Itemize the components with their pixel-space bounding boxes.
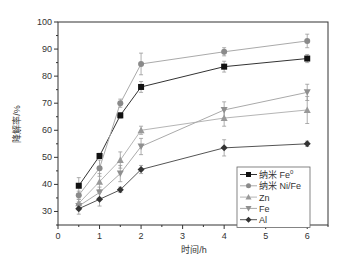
data-point [117,112,123,118]
legend-label: 纳米 Ni/Fe [259,180,301,191]
y-tick-label: 30 [42,206,52,216]
x-tick-label: 6 [305,231,310,241]
y-tick-label: 40 [42,179,52,189]
data-point [221,64,227,70]
data-point [76,192,82,198]
x-tick-label: 0 [55,231,60,241]
data-point [97,153,103,159]
legend-label: Al [259,215,267,225]
data-point [304,56,310,62]
data-point [221,144,228,151]
data-point [304,38,310,44]
data-point [96,196,103,203]
x-tick-label: 5 [263,231,268,241]
legend-label: Zn [259,193,270,203]
data-point [97,165,103,171]
x-tick-label: 2 [139,231,144,241]
data-point [76,183,82,189]
y-tick-label: 70 [42,98,52,108]
y-tick-label: 80 [42,71,52,81]
data-point [221,107,228,114]
legend-marker [246,183,251,188]
legend-label: 纳米 Fe0 [259,169,294,180]
legend-marker [246,172,251,177]
x-axis-label: 时间/h [181,244,207,255]
data-point [304,140,311,147]
data-point [221,49,227,55]
data-point [117,100,123,106]
data-point [117,157,124,164]
data-point [138,84,144,90]
y-tick-label: 100 [37,17,52,27]
y-tick-label: 50 [42,152,52,162]
data-point [138,61,144,67]
y-axis-label: 降解率/% [11,105,22,143]
y-tick-label: 90 [42,44,52,54]
x-tick-label: 4 [222,231,227,241]
y-tick-label: 60 [42,125,52,135]
legend-label: Fe [259,204,270,214]
plot-area: 012345630405060708090100纳米 Fe0纳米 Ni/FeZn… [37,17,328,241]
x-tick-label: 3 [180,231,185,241]
x-tick-label: 1 [97,231,102,241]
degradation-rate-chart: 012345630405060708090100纳米 Fe0纳米 Ni/FeZn… [0,0,348,270]
